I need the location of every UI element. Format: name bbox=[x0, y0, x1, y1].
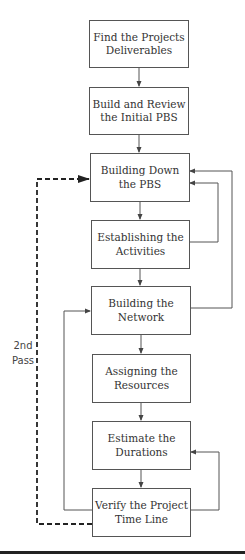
loop-n8-to-n5 bbox=[64, 311, 92, 510]
node-verify-time-line: Verify the Project Time Line bbox=[92, 488, 191, 537]
node-label: Verify the Project Time Line bbox=[95, 499, 188, 526]
loop-n4-to-n3 bbox=[189, 183, 218, 242]
node-find-deliverables: Find the Projects Deliverables bbox=[89, 20, 189, 68]
node-label: Building the Network bbox=[108, 297, 173, 324]
second-pass-label-line2: Pass bbox=[10, 353, 36, 368]
loop-n8-to-n7 bbox=[190, 452, 219, 510]
node-label: Establishing the Activities bbox=[97, 231, 184, 258]
second-pass-label-line1: 2nd bbox=[10, 338, 36, 353]
node-label: Building Down the PBS bbox=[101, 164, 180, 191]
second-pass-label: 2nd Pass bbox=[10, 338, 36, 368]
node-assigning-resources: Assigning the Resources bbox=[92, 354, 191, 403]
node-label: Find the Projects Deliverables bbox=[93, 31, 184, 58]
node-label: Assigning the Resources bbox=[105, 365, 178, 392]
node-build-review-pbs: Build and Review the Initial PBS bbox=[89, 87, 189, 135]
connector-lines bbox=[0, 0, 245, 560]
loop-n5-to-n3 bbox=[190, 171, 232, 308]
node-building-down-pbs: Building Down the PBS bbox=[90, 153, 190, 202]
node-estimate-durations: Estimate the Durations bbox=[92, 421, 191, 470]
node-label: Build and Review the Initial PBS bbox=[93, 98, 186, 125]
node-building-network: Building the Network bbox=[91, 286, 191, 335]
node-establishing-activities: Establishing the Activities bbox=[91, 220, 190, 269]
node-label: Estimate the Durations bbox=[108, 432, 176, 459]
bottom-rule bbox=[0, 551, 245, 554]
